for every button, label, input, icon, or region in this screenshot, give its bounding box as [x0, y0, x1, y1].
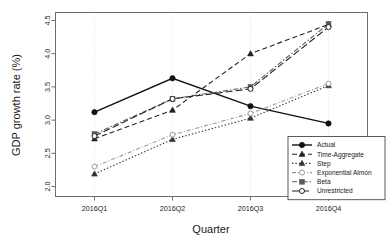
data-point	[170, 76, 175, 81]
data-point	[326, 121, 331, 126]
y-axis-title: GDP growth rate (%)	[10, 54, 22, 156]
data-point	[326, 81, 331, 86]
data-point	[170, 132, 175, 137]
data-point	[248, 111, 253, 116]
data-point	[92, 109, 97, 114]
chart-container: 2.02.53.03.54.04.5 2016Q12016Q22016Q3201…	[0, 0, 387, 240]
data-point	[248, 103, 253, 108]
y-tick-label: 4.0	[43, 49, 52, 59]
data-point	[92, 134, 97, 139]
y-tick-label: 2.0	[43, 182, 52, 192]
legend-label-unrestricted: Unrestricted	[317, 187, 353, 194]
y-tick-label: 3.5	[43, 82, 52, 92]
gdp-growth-line-chart: 2.02.53.03.54.04.5 2016Q12016Q22016Q3201…	[0, 0, 387, 240]
legend-marker	[300, 189, 305, 194]
data-point	[92, 164, 97, 169]
data-point	[326, 25, 331, 30]
legend-marker	[300, 179, 305, 184]
legend-label-time-aggregate: Time-Aggregate	[317, 151, 364, 159]
y-tick-label: 3.0	[43, 115, 52, 125]
x-tick-label-2016Q3: 2016Q3	[238, 204, 264, 213]
x-axis-title: Quarter	[192, 223, 230, 235]
x-tick-label-2016Q1: 2016Q1	[82, 204, 108, 213]
legend-marker	[300, 170, 305, 175]
data-point	[170, 96, 175, 101]
legend-label-step: Step	[317, 160, 331, 168]
legend-label-exponential-almon: Exponential Almon	[317, 169, 372, 177]
x-tick-label-2016Q4: 2016Q4	[316, 204, 342, 213]
y-tick-label: 4.5	[43, 15, 52, 25]
legend-marker	[299, 142, 304, 147]
chart-legend: ActualTime-AggregateStepExponential Almo…	[288, 137, 385, 200]
legend-label-actual: Actual	[317, 141, 336, 148]
legend-label-beta: Beta	[317, 178, 331, 185]
y-tick-label: 2.5	[43, 148, 52, 158]
data-point	[248, 86, 253, 91]
x-tick-label-2016Q2: 2016Q2	[160, 204, 186, 213]
